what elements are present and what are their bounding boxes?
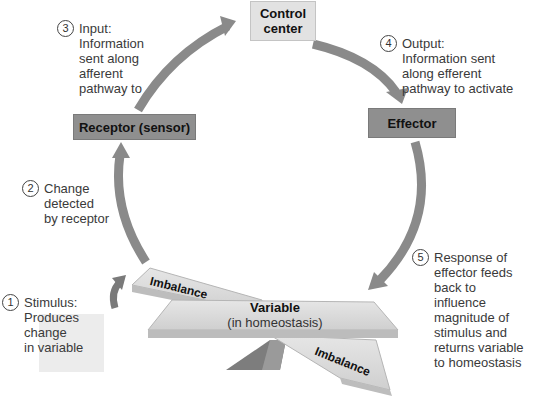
receptor-label: Receptor (sensor) xyxy=(79,120,190,135)
step-4-output: 4 Output: Information sent along efferen… xyxy=(380,36,540,96)
step-5-response: 5 Response of effector feeds back to inf… xyxy=(412,250,542,370)
effector-label: Effector xyxy=(387,116,436,131)
control-center-label: Control center xyxy=(260,6,306,36)
control-center-box: Control center xyxy=(250,1,316,41)
effector-box: Effector xyxy=(368,108,456,138)
step-2-change: 2 Change detected by receptor xyxy=(22,181,132,226)
step-4-number-icon: 4 xyxy=(380,35,397,52)
receptor-box: Receptor (sensor) xyxy=(73,114,196,140)
step-5-number-icon: 5 xyxy=(412,249,429,266)
variable-subtitle: (in homeostasis) xyxy=(200,315,350,330)
imbalance-plank-right xyxy=(270,335,392,396)
step-1-number-icon: 1 xyxy=(2,294,19,311)
step-3-input: 3 Input: Information sent along afferent… xyxy=(57,21,167,96)
step-1-stimulus: 1 Stimulus: Produces change in variable xyxy=(2,295,112,355)
step-3-text: Input: Information sent along afferent p… xyxy=(57,21,167,96)
step-3-number-icon: 3 xyxy=(57,20,74,37)
variable-label-group: Variable (in homeostasis) xyxy=(200,300,350,330)
step-5-text: Response of effector feeds back to influ… xyxy=(412,250,542,370)
variable-title: Variable xyxy=(200,300,350,315)
arrow-stimulus xyxy=(112,275,126,308)
step-4-text: Output: Information sent along efferent … xyxy=(380,36,540,96)
step-2-number-icon: 2 xyxy=(22,180,39,197)
